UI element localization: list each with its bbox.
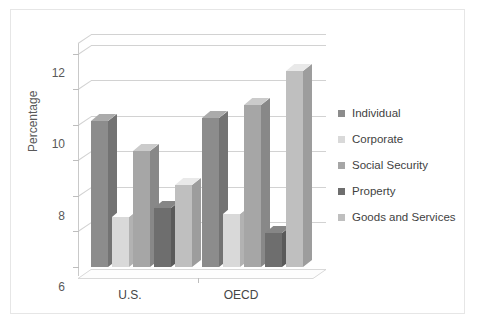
gridline-riser xyxy=(78,223,92,233)
y-axis-title: Percentage xyxy=(26,91,40,152)
bar-oecd-goods-and-services xyxy=(286,71,303,267)
y-axis-tick: 12 xyxy=(73,54,79,55)
y-axis-tick: 8 xyxy=(73,125,79,126)
y-axis-tick-label: 8 xyxy=(58,209,65,223)
x-axis-divider xyxy=(198,278,199,283)
bar-front-face xyxy=(175,185,192,267)
legend-swatch-icon xyxy=(338,214,345,221)
bar-us-social-security xyxy=(133,151,150,267)
x-axis-label-us: U.S. xyxy=(118,288,141,302)
legend-item-individual: Individual xyxy=(338,100,463,126)
y-axis-tick: 2 xyxy=(73,231,79,232)
gridline-riser xyxy=(78,80,92,90)
y-axis-tick-label: 12 xyxy=(52,66,65,80)
bar-side-face xyxy=(192,178,201,267)
bar-front-face xyxy=(265,233,282,267)
bar-front-face xyxy=(91,121,108,267)
y-axis-tick: 6 xyxy=(73,160,79,161)
gridline-riser xyxy=(78,151,92,161)
bar-front-face xyxy=(133,151,150,267)
bar-front-face xyxy=(286,71,303,267)
y-axis-tick: 10 xyxy=(73,89,79,90)
bar-front-face xyxy=(202,118,219,267)
bar-oecd-property xyxy=(265,233,282,267)
plot-floor xyxy=(78,267,326,279)
gridline xyxy=(91,45,326,46)
legend-swatch-icon xyxy=(338,136,345,143)
plot-area: 024681012 xyxy=(78,34,326,276)
y-axis-tick-label: 10 xyxy=(52,137,65,151)
bar-front-face xyxy=(112,217,129,267)
bar-front-face xyxy=(154,208,171,267)
x-axis-label-oecd: OECD xyxy=(224,288,259,302)
bar-oecd-individual xyxy=(202,118,219,267)
chart-legend: IndividualCorporateSocial SecurityProper… xyxy=(338,100,463,230)
bar-us-goods-and-services xyxy=(175,185,192,267)
bar-front-face xyxy=(244,105,261,267)
plot-ceiling-line xyxy=(91,34,326,35)
bar-oecd-corporate xyxy=(223,214,240,267)
chart-figure: 2010 024681012 Percentage U.S.OECD Indiv… xyxy=(0,0,479,328)
legend-label: Property xyxy=(352,185,395,197)
bar-front-face xyxy=(223,214,240,267)
plot-ceiling-riser xyxy=(78,34,92,44)
bar-us-property xyxy=(154,208,171,267)
legend-label: Social Security xyxy=(352,159,428,171)
legend-label: Individual xyxy=(352,107,401,119)
legend-swatch-icon xyxy=(338,162,345,169)
y-axis-tick-label: 6 xyxy=(58,280,65,294)
legend-swatch-icon xyxy=(338,110,345,117)
bar-us-individual xyxy=(91,121,108,267)
gridline-riser xyxy=(78,45,92,55)
legend-label: Corporate xyxy=(352,133,403,145)
legend-label: Goods and Services xyxy=(352,211,456,223)
bar-us-corporate xyxy=(112,217,129,267)
y-axis-tick: 4 xyxy=(73,196,79,197)
legend-item-social-security: Social Security xyxy=(338,152,463,178)
legend-item-corporate: Corporate xyxy=(338,126,463,152)
gridline-riser xyxy=(78,187,92,197)
legend-item-goods-and-services: Goods and Services xyxy=(338,204,463,230)
bar-side-face xyxy=(303,64,312,267)
legend-swatch-icon xyxy=(338,188,345,195)
bar-oecd-social-security xyxy=(244,105,261,267)
legend-item-property: Property xyxy=(338,178,463,204)
